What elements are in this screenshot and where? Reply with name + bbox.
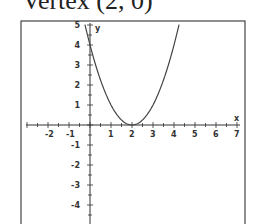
x-tick-label: -1	[66, 130, 75, 139]
x-tick-label: 5	[192, 130, 198, 139]
y-tick-label: 2	[74, 81, 80, 90]
plot-frame	[21, 21, 245, 224]
y-tick-label: -1	[71, 141, 80, 150]
x-tick-label: 2	[129, 130, 135, 139]
y-tick-label: -3	[71, 181, 80, 190]
x-tick-label: 1	[108, 130, 114, 139]
parabola-chart: x y -2-11234567 54321-1-2-3-4	[0, 0, 254, 224]
x-axis-label: x	[234, 114, 240, 123]
y-tick-label: 1	[74, 101, 80, 110]
y-tick-label: 4	[74, 41, 80, 50]
x-tick-label: 7	[234, 130, 240, 139]
y-tick-label: 3	[74, 61, 80, 70]
parabola-curve	[85, 25, 179, 125]
x-tick-label: 6	[213, 130, 219, 139]
x-tick-label: 4	[171, 130, 177, 139]
y-tick-label: -2	[71, 161, 80, 170]
x-tick-labels: -2-11234567	[45, 130, 240, 139]
y-tick-labels: 54321-1-2-3-4	[71, 21, 80, 210]
x-tick-label: 3	[150, 130, 156, 139]
y-tick-label: 5	[74, 21, 80, 30]
y-axis-label: y	[95, 24, 101, 33]
x-tick-label: -2	[45, 130, 54, 139]
y-tick-label: -4	[71, 201, 80, 210]
